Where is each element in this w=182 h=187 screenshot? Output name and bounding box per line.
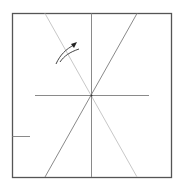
center-point xyxy=(91,95,93,97)
origami-diagram xyxy=(0,0,182,187)
